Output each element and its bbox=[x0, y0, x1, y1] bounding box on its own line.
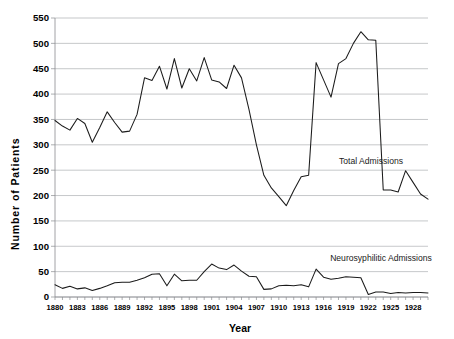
y-axis-tick-labels: 050100150200250300350400450500550 bbox=[33, 12, 55, 302]
line-chart-figure: 050100150200250300350400450500550 188018… bbox=[0, 0, 454, 339]
x-axis-tick-label: 1898 bbox=[181, 303, 198, 312]
chart-canvas: 050100150200250300350400450500550 188018… bbox=[0, 0, 454, 339]
x-axis-tick-label: 1913 bbox=[293, 303, 310, 312]
x-axis-tick-label: 1883 bbox=[69, 303, 86, 312]
x-axis-tick-label: 1895 bbox=[158, 303, 176, 312]
y-axis-tick-label: 150 bbox=[33, 215, 49, 226]
x-axis-tick-label: 1889 bbox=[114, 303, 131, 312]
x-axis-tick-label: 1928 bbox=[405, 303, 422, 312]
x-axis-tick-label: 1910 bbox=[270, 303, 287, 312]
y-axis-tick-label: 400 bbox=[33, 88, 49, 99]
x-axis-tick-label: 1880 bbox=[47, 303, 64, 312]
x-axis-tick-labels: 1880188318861889189218951898190119041907… bbox=[47, 303, 422, 312]
x-axis-title: Year bbox=[229, 322, 251, 334]
y-axis-tick-label: 200 bbox=[33, 190, 49, 201]
x-axis-tick-label: 1886 bbox=[91, 303, 108, 312]
y-axis-tick-label: 550 bbox=[33, 12, 49, 23]
y-axis-tick-label: 450 bbox=[33, 63, 49, 74]
x-axis-tick-label: 1904 bbox=[226, 303, 244, 312]
y-axis-title: Number of Patients bbox=[9, 138, 21, 250]
y-axis-tick-label: 100 bbox=[33, 241, 49, 252]
y-axis-tick-label: 500 bbox=[33, 38, 49, 49]
x-axis-tick-label: 1916 bbox=[315, 303, 332, 312]
x-axis-tick-label: 1919 bbox=[337, 303, 354, 312]
x-axis-tick-label: 1892 bbox=[136, 303, 153, 312]
y-axis-tick-label: 0 bbox=[44, 291, 49, 302]
y-axis-tick-label: 300 bbox=[33, 139, 49, 150]
annotation-neurosyphilitic-admissions: Neurosyphilitic Admissions bbox=[330, 253, 432, 263]
annotation-total-admissions: Total Admissions bbox=[339, 156, 403, 166]
x-axis-tick-label: 1907 bbox=[248, 303, 265, 312]
series-line-total-admissions bbox=[55, 32, 428, 206]
x-axis-tick-label: 1925 bbox=[382, 303, 400, 312]
y-axis-tick-label: 250 bbox=[33, 165, 49, 176]
x-axis-tick-label: 1922 bbox=[360, 303, 377, 312]
x-axis-tick-label: 1901 bbox=[203, 303, 221, 312]
y-axis-tick-label: 50 bbox=[38, 266, 49, 277]
y-axis-tick-label: 350 bbox=[33, 114, 49, 125]
x-axis-tick-marks bbox=[55, 297, 428, 300]
series-line-neurosyphilitic-admissions bbox=[55, 264, 428, 294]
